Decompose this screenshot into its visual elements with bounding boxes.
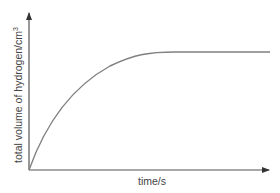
chart-area — [0, 0, 280, 193]
y-axis-label: total volume of hydrogen/cm3 — [12, 27, 25, 163]
x-axis-label: time/s — [138, 175, 166, 187]
curve-hydrogen-volume — [29, 52, 270, 170]
